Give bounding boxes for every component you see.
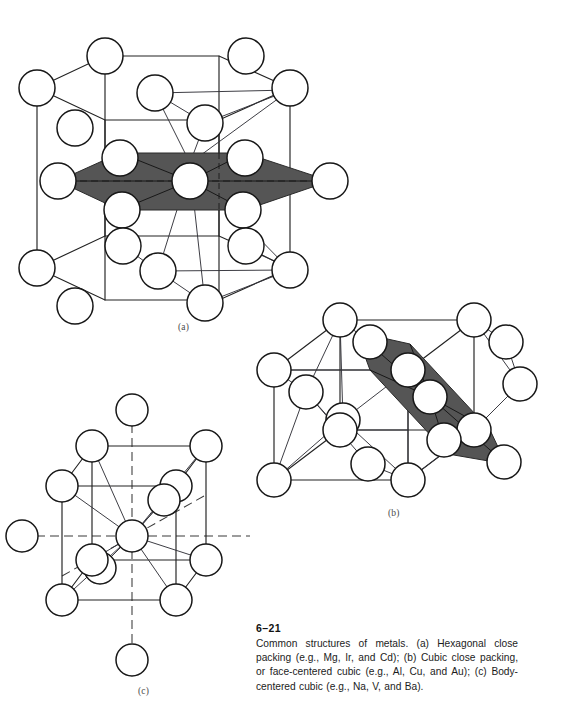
figure-caption-block: 6–21 Common structures of metals. (a) He… <box>256 622 518 694</box>
atom <box>187 105 223 141</box>
atom <box>140 253 176 289</box>
atom <box>19 70 55 106</box>
atom <box>457 413 491 447</box>
atom <box>57 288 93 324</box>
atom <box>489 325 523 359</box>
atom <box>353 325 387 359</box>
atom-center <box>116 520 148 552</box>
atom-center <box>413 380 447 414</box>
atom <box>312 163 348 199</box>
atom <box>160 584 192 616</box>
atom-outer <box>6 520 38 552</box>
atom <box>57 110 93 146</box>
atom <box>487 445 521 479</box>
atom <box>323 413 357 447</box>
atom <box>40 163 76 199</box>
atom <box>227 140 263 176</box>
figure-number: 6–21 <box>256 622 518 634</box>
atom <box>457 303 491 337</box>
atom <box>104 192 140 228</box>
atom <box>187 285 223 321</box>
diagram-hexagonal-close-packing <box>0 18 345 328</box>
atom <box>190 544 222 576</box>
atom <box>137 75 173 111</box>
panel-a-sublabel: (a) <box>178 322 189 332</box>
figure-caption-text: Common structures of metals. (a) Hexagon… <box>256 637 518 694</box>
atom <box>46 470 78 502</box>
panel-c-sublabel: (c) <box>138 686 149 696</box>
atom <box>225 192 261 228</box>
figure-container: (a) <box>0 0 563 726</box>
atom <box>323 303 357 337</box>
atom <box>391 353 425 387</box>
atom <box>148 484 180 516</box>
atom <box>228 38 264 74</box>
atom <box>87 38 123 74</box>
atom <box>76 544 108 576</box>
atom <box>427 423 461 457</box>
atom <box>102 140 138 176</box>
atom <box>351 447 385 481</box>
diagram-cubic-close-packing <box>258 312 558 512</box>
atom <box>105 228 141 264</box>
atom <box>272 252 308 288</box>
atom <box>503 367 537 401</box>
atom <box>289 375 323 409</box>
atom <box>391 463 425 497</box>
fcc-atoms <box>257 303 537 497</box>
atom-center <box>172 163 208 199</box>
diagram-body-centered-cubic <box>4 388 260 684</box>
atom <box>19 250 55 286</box>
atom-outer <box>116 644 148 676</box>
atom-outer <box>116 394 148 426</box>
atom <box>257 463 291 497</box>
atom <box>190 430 222 462</box>
atom <box>272 70 308 106</box>
atom <box>46 584 78 616</box>
atom <box>257 353 291 387</box>
atom <box>228 228 264 264</box>
panel-b-sublabel: (b) <box>388 508 400 518</box>
atom <box>76 430 108 462</box>
bcc-atoms <box>6 394 222 676</box>
